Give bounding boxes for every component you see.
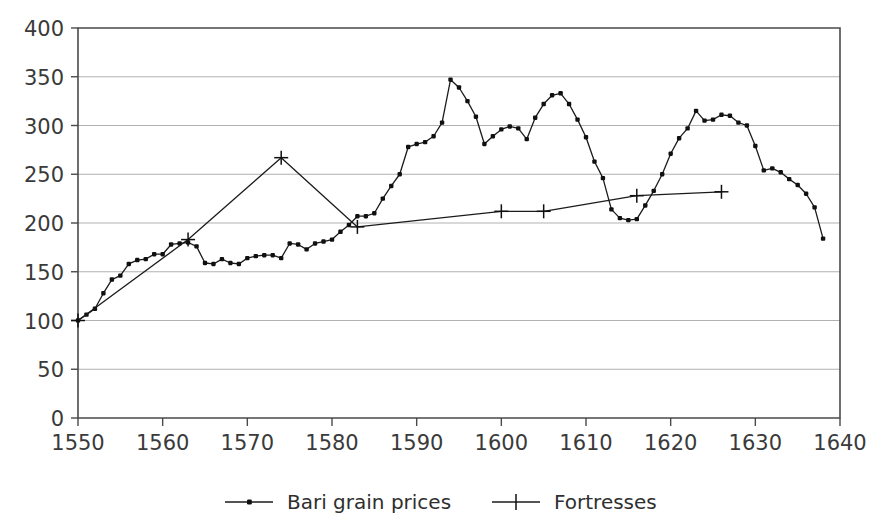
data-point xyxy=(626,218,630,222)
data-point xyxy=(677,136,681,140)
legend-label: Bari grain prices xyxy=(287,490,451,514)
data-point xyxy=(584,135,588,139)
data-point xyxy=(702,118,706,122)
data-point xyxy=(601,176,605,180)
data-point xyxy=(660,172,664,176)
y-tick-label: 100 xyxy=(24,310,64,334)
data-point xyxy=(711,117,715,121)
data-point xyxy=(516,126,520,130)
data-point xyxy=(457,85,461,89)
legend-label: Fortresses xyxy=(554,490,657,514)
x-tick-label: 1550 xyxy=(51,431,104,455)
data-point xyxy=(237,262,241,266)
x-tick-labels: 1550156015701580159016001610162016301640 xyxy=(51,431,866,455)
data-point xyxy=(135,258,139,262)
legend-entry-1[interactable]: Bari grain prices xyxy=(225,490,451,514)
x-tick-label: 1560 xyxy=(136,431,189,455)
data-point xyxy=(228,261,232,265)
legend-dot-marker xyxy=(247,500,252,505)
data-point xyxy=(567,102,571,106)
data-point xyxy=(381,196,385,200)
data-point xyxy=(101,291,105,295)
x-tick-label: 1610 xyxy=(559,431,612,455)
data-point xyxy=(152,252,156,256)
data-point xyxy=(525,137,529,141)
data-point xyxy=(714,185,728,199)
x-tick-label: 1570 xyxy=(221,431,274,455)
data-point xyxy=(635,217,639,221)
chart-figure: 050100150200250300350400 155015601570158… xyxy=(0,0,885,531)
y-tick-label: 50 xyxy=(37,358,64,382)
series-container xyxy=(71,77,825,327)
data-point xyxy=(118,273,122,277)
data-point xyxy=(262,253,266,257)
data-point xyxy=(169,242,173,246)
data-point xyxy=(144,257,148,261)
data-point xyxy=(812,205,816,209)
data-point xyxy=(71,314,85,328)
y-gridlines xyxy=(78,77,840,370)
data-point xyxy=(296,242,300,246)
data-point xyxy=(787,177,791,181)
y-tick-label: 200 xyxy=(24,212,64,236)
x-tick-label: 1580 xyxy=(305,431,358,455)
data-point xyxy=(474,115,478,119)
x-tick-label: 1630 xyxy=(729,431,782,455)
y-tick-label: 300 xyxy=(24,115,64,139)
y-tick-label: 400 xyxy=(24,17,64,41)
data-point xyxy=(330,237,334,241)
data-point xyxy=(508,124,512,128)
data-point xyxy=(414,142,418,146)
y-tick-label: 250 xyxy=(24,163,64,187)
data-point xyxy=(779,170,783,174)
data-point xyxy=(254,254,258,258)
data-point xyxy=(423,140,427,144)
data-point xyxy=(398,172,402,176)
data-point xyxy=(550,93,554,97)
data-point xyxy=(364,214,368,218)
data-point xyxy=(728,114,732,118)
y-axis-ticks xyxy=(71,28,78,418)
data-point xyxy=(160,252,164,256)
data-point xyxy=(575,117,579,121)
y-tick-label: 0 xyxy=(51,407,64,431)
data-point xyxy=(389,184,393,188)
data-point xyxy=(448,77,452,81)
data-point xyxy=(313,241,317,245)
data-point xyxy=(431,134,435,138)
series-1 xyxy=(76,77,825,322)
data-point xyxy=(541,102,545,106)
data-point xyxy=(592,159,596,163)
data-point xyxy=(440,120,444,124)
data-point xyxy=(491,134,495,138)
data-point xyxy=(482,142,486,146)
data-point xyxy=(465,99,469,103)
data-point xyxy=(406,145,410,149)
data-point xyxy=(694,109,698,113)
data-point xyxy=(203,261,207,265)
data-point xyxy=(609,207,613,211)
data-point xyxy=(372,211,376,215)
y-tick-label: 350 xyxy=(24,66,64,90)
data-point xyxy=(537,204,551,218)
series-line-2 xyxy=(78,158,721,321)
legend-entry-2[interactable]: Fortresses xyxy=(492,490,657,514)
data-point xyxy=(719,113,723,117)
y-tick-labels: 050100150200250300350400 xyxy=(24,17,64,431)
data-point xyxy=(110,277,114,281)
y-tick-label: 150 xyxy=(24,261,64,285)
data-point xyxy=(211,262,215,266)
data-point xyxy=(499,127,503,131)
data-point xyxy=(652,189,656,193)
data-point xyxy=(762,168,766,172)
chart-legend: Bari grain pricesFortresses xyxy=(225,490,657,514)
data-point xyxy=(321,239,325,243)
data-point xyxy=(338,230,342,234)
data-point xyxy=(804,192,808,196)
data-point xyxy=(770,166,774,170)
data-point xyxy=(821,236,825,240)
data-point xyxy=(355,214,359,218)
data-point xyxy=(220,257,224,261)
data-point xyxy=(753,144,757,148)
data-point xyxy=(533,116,537,120)
